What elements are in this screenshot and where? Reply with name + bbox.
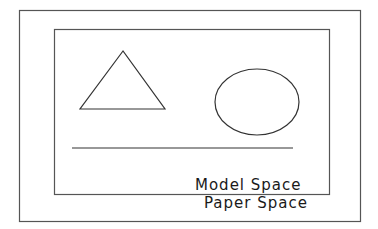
paper-space-border bbox=[20, 11, 361, 222]
paper-space-label: Paper Space bbox=[204, 194, 308, 212]
triangle-shape bbox=[80, 51, 165, 109]
ellipse-shape bbox=[215, 69, 299, 135]
model-space-viewport bbox=[55, 30, 330, 195]
model-space-label: Model Space bbox=[195, 176, 302, 194]
paper-space-diagram: Model Space Paper Space bbox=[0, 0, 378, 229]
